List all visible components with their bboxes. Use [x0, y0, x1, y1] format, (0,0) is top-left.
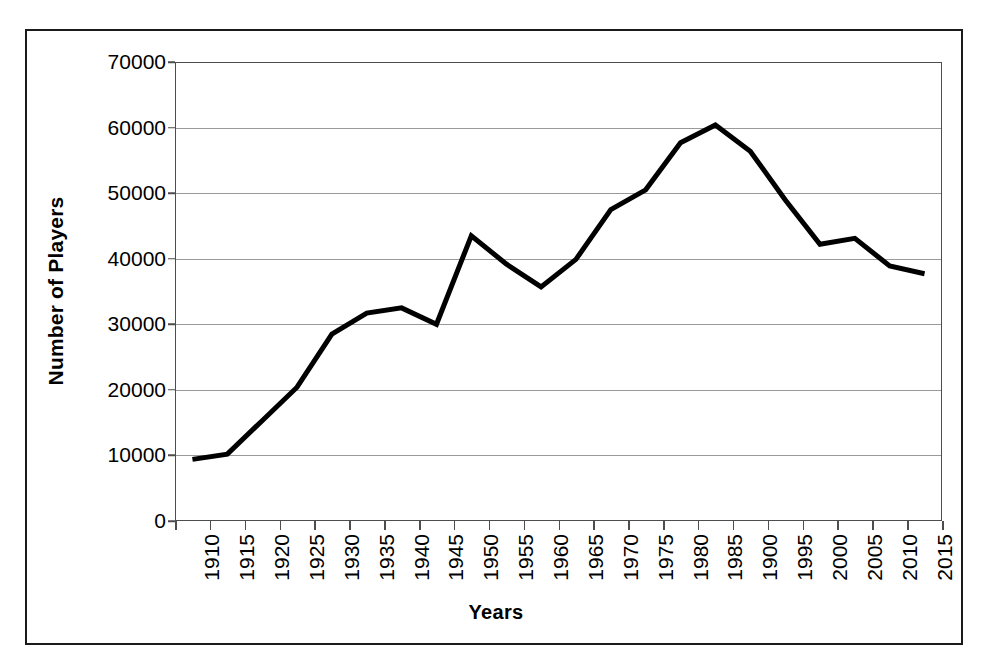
x-tick-label: 1955: [514, 534, 538, 581]
y-tick-mark: [168, 455, 175, 457]
x-tick-label: 1975: [654, 534, 678, 581]
x-tick-label: 1920: [270, 534, 294, 581]
x-tick-mark: [210, 521, 212, 530]
line-series-number-of-players: [175, 62, 942, 521]
x-tick-label: 2005: [863, 534, 887, 581]
x-tick-label: 1930: [340, 534, 364, 581]
x-tick-mark: [872, 521, 874, 530]
x-tick-label: 1910: [200, 534, 224, 581]
x-tick-mark: [524, 521, 526, 530]
x-tick-label: 1900: [758, 534, 782, 581]
x-tick-label: 1950: [479, 534, 503, 581]
x-tick-mark: [175, 521, 177, 530]
x-tick-label: 1915: [235, 534, 259, 581]
x-tick-mark: [314, 521, 316, 530]
x-tick-mark: [245, 521, 247, 530]
x-tick-mark: [837, 521, 839, 530]
x-tick-label: 1935: [375, 534, 399, 581]
x-tick-label: 1970: [619, 534, 643, 581]
y-tick-mark: [168, 258, 175, 260]
y-tick-label: 20000: [108, 378, 166, 402]
y-tick-mark: [168, 324, 175, 326]
x-tick-label: 1965: [584, 534, 608, 581]
y-tick-mark: [168, 389, 175, 391]
y-tick-mark: [168, 61, 175, 63]
x-tick-mark: [349, 521, 351, 530]
x-tick-mark: [907, 521, 909, 530]
x-tick-label: 1945: [444, 534, 468, 581]
x-tick-mark: [803, 521, 805, 530]
y-axis-title: Number of Players: [44, 81, 68, 501]
x-tick-mark: [384, 521, 386, 530]
y-tick-mark: [168, 520, 175, 522]
x-tick-label: 1925: [305, 534, 329, 581]
x-tick-mark: [454, 521, 456, 530]
x-tick-label: 1995: [793, 534, 817, 581]
x-tick-label: 1985: [723, 534, 747, 581]
y-tick-mark: [168, 127, 175, 129]
y-tick-label: 30000: [108, 312, 166, 336]
x-tick-label: 2010: [898, 534, 922, 581]
x-tick-mark: [489, 521, 491, 530]
x-tick-mark: [698, 521, 700, 530]
y-tick-label: 60000: [108, 116, 166, 140]
y-tick-label: 50000: [108, 181, 166, 205]
series-polyline: [192, 125, 924, 459]
x-tick-mark: [559, 521, 561, 530]
y-tick-label: 40000: [108, 247, 166, 271]
x-tick-mark: [663, 521, 665, 530]
chart-figure-frame: Number of Players 0100002000030000400005…: [25, 29, 963, 645]
x-tick-label: 2000: [828, 534, 852, 581]
y-tick-mark: [168, 192, 175, 194]
x-axis-title: Years: [27, 601, 965, 624]
x-tick-mark: [628, 521, 630, 530]
x-tick-label: 1940: [410, 534, 434, 581]
y-tick-label: 0: [154, 509, 166, 533]
x-tick-mark: [280, 521, 282, 530]
x-tick-label: 2015: [933, 534, 957, 581]
x-tick-mark: [419, 521, 421, 530]
x-tick-mark: [768, 521, 770, 530]
x-tick-mark: [733, 521, 735, 530]
y-tick-label: 10000: [108, 443, 166, 467]
x-tick-mark: [942, 521, 944, 530]
x-tick-mark: [593, 521, 595, 530]
y-tick-label: 70000: [108, 50, 166, 74]
x-tick-label: 1960: [549, 534, 573, 581]
plot-area: 010000200003000040000500006000070000 191…: [175, 62, 942, 521]
x-tick-label: 1980: [689, 534, 713, 581]
